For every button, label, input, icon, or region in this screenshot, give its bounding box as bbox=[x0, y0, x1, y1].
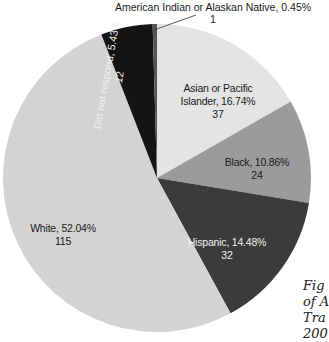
caption-line: of A bbox=[303, 294, 329, 310]
label-text: Asian or Pacific bbox=[180, 82, 255, 95]
label-count: 32 bbox=[188, 249, 267, 262]
caption-line: 200 bbox=[303, 326, 329, 342]
label-count: 115 bbox=[30, 235, 96, 248]
caption-line: Tra bbox=[303, 310, 329, 326]
label-text: Black, 10.86% bbox=[225, 156, 290, 169]
label-text: American Indian or Alaskan Native, 0.45% bbox=[115, 1, 311, 13]
label-asian-pacific: Asian or Pacific Islander, 16.74% 37 bbox=[180, 82, 255, 121]
label-count: 24 bbox=[225, 169, 290, 182]
label-hispanic: Hispanic, 14.48% 32 bbox=[188, 236, 267, 262]
label-american-indian: American Indian or Alaskan Native, 0.45%… bbox=[115, 1, 311, 25]
label-text: Islander, 16.74% bbox=[180, 95, 255, 108]
label-count: 1 bbox=[115, 13, 311, 25]
caption-line: Fig bbox=[303, 278, 329, 294]
label-white: White, 52.04% 115 bbox=[30, 222, 96, 248]
figure-caption: Fig of A Tra 200 bbox=[303, 278, 329, 342]
label-black: Black, 10.86% 24 bbox=[225, 156, 290, 182]
label-text: Hispanic, 14.48% bbox=[188, 236, 267, 249]
label-count: 37 bbox=[180, 108, 255, 121]
label-text: White, 52.04% bbox=[30, 222, 96, 235]
